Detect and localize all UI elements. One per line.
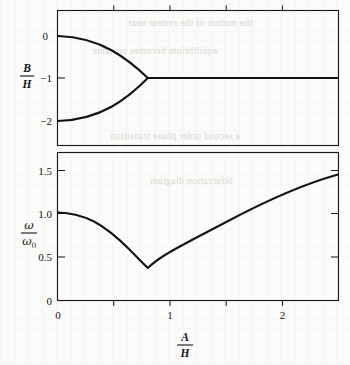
bottom-ylabel-numerator: ω (24, 218, 34, 232)
top-panel: 0 −1 −2 B H (20, 6, 339, 146)
curve-lower-branch (58, 78, 148, 121)
bottom-panel-ylabel: ω ω 0 (21, 218, 37, 250)
bottom-ytick-label-05: 0.5 (38, 251, 52, 263)
bottom-xtick-label-0: 0 (55, 309, 61, 321)
top-panel-top-ticks (114, 6, 283, 11)
bottom-ytick-label-15: 1.5 (38, 165, 52, 177)
bottom-ytick-label-0: 0 (47, 295, 53, 307)
bottom-panel-frame (58, 153, 339, 301)
bottom-xtick-label-2: 2 (280, 309, 286, 321)
figure-page: the motion of the system near equilibriu… (0, 0, 350, 365)
top-ylabel-denominator: H (22, 78, 33, 90)
physics-figure: 0 −1 −2 B H (0, 0, 350, 365)
bottom-panel-xlabel: A H (177, 331, 193, 359)
top-ylabel-numerator: B (22, 62, 31, 74)
bottom-xlabel-numerator: A (180, 331, 189, 343)
curve-upper-branch (58, 36, 148, 78)
top-panel-ylabel: B H (20, 62, 34, 90)
bottom-ylabel-denominator-subscript: 0 (32, 241, 37, 250)
top-ytick-label-minus1: −1 (40, 72, 52, 84)
bottom-ytick-label-10: 1.0 (38, 208, 52, 220)
top-ytick-label-0: 0 (43, 30, 49, 42)
bottom-xlabel-denominator: H (180, 347, 191, 359)
bottom-xtick-label-1: 1 (167, 309, 173, 321)
curve-frequency-ratio (58, 175, 338, 269)
bottom-panel: 1.5 1.0 0.5 0 0 1 2 ω ω 0 A H (21, 153, 339, 360)
bottom-panel-right-ticks (331, 171, 339, 258)
bottom-panel-bottom-ticks (114, 301, 283, 307)
top-ytick-label-minus2: −2 (40, 115, 52, 127)
